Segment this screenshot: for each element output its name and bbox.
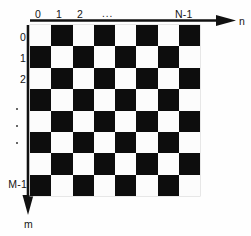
- grid-cell: [158, 132, 179, 153]
- grid-cell: [115, 46, 136, 67]
- grid-cell: [73, 132, 94, 153]
- grid-cell: [179, 89, 200, 110]
- grid-cell: [30, 175, 51, 196]
- ellipsis-dot: [16, 108, 18, 110]
- grid-cell: [158, 153, 179, 174]
- grid-cell: [179, 111, 200, 132]
- grid-cell: [94, 25, 115, 46]
- grid-cell: [30, 89, 51, 110]
- ellipsis-dot: [16, 125, 18, 127]
- grid-cell: [51, 46, 72, 67]
- figure-canvas: 0 1 2 ... N-1 0 1 2 M-1 n m: [0, 0, 251, 236]
- grid-cell: [158, 111, 179, 132]
- grid-cell: [94, 132, 115, 153]
- grid-cell: [136, 132, 157, 153]
- grid-cell: [179, 46, 200, 67]
- axis-label-n: n: [239, 16, 245, 27]
- grid-cell: [136, 175, 157, 196]
- grid-cell: [73, 175, 94, 196]
- grid-cell: [94, 111, 115, 132]
- grid-cell: [30, 46, 51, 67]
- grid-cell: [51, 153, 72, 174]
- grid-cell: [51, 111, 72, 132]
- grid-cell: [30, 132, 51, 153]
- ellipsis-dot: [16, 142, 18, 144]
- grid-cell: [158, 46, 179, 67]
- checkerboard-grid: [30, 25, 200, 196]
- grid-cell: [115, 153, 136, 174]
- axis-label-m: m: [24, 219, 33, 230]
- grid-cell: [115, 68, 136, 89]
- grid-cell: [179, 153, 200, 174]
- grid-cell: [179, 175, 200, 196]
- grid-cell: [136, 68, 157, 89]
- grid-cell: [51, 25, 72, 46]
- grid-cell: [73, 153, 94, 174]
- grid-cell: [94, 89, 115, 110]
- grid-cell: [115, 132, 136, 153]
- grid-cell: [158, 89, 179, 110]
- grid-cell: [51, 132, 72, 153]
- grid-cell: [73, 46, 94, 67]
- grid-cell: [30, 68, 51, 89]
- grid-cell: [136, 46, 157, 67]
- grid-cell: [30, 111, 51, 132]
- grid-cell: [51, 89, 72, 110]
- grid-cell: [158, 175, 179, 196]
- grid-cell: [179, 68, 200, 89]
- grid-cell: [136, 89, 157, 110]
- grid-cell: [73, 89, 94, 110]
- grid-cell: [30, 25, 51, 46]
- grid-cell: [115, 111, 136, 132]
- row-label-ellipsis: [14, 108, 20, 144]
- grid-cell: [136, 25, 157, 46]
- grid-cell: [51, 68, 72, 89]
- grid-cell: [73, 68, 94, 89]
- grid-cell: [94, 175, 115, 196]
- grid-cell: [115, 25, 136, 46]
- grid-cell: [136, 153, 157, 174]
- grid-cell: [115, 175, 136, 196]
- grid-cell: [30, 153, 51, 174]
- grid-cell: [179, 25, 200, 46]
- grid-cell: [94, 153, 115, 174]
- grid-cell: [115, 89, 136, 110]
- grid-cell: [179, 132, 200, 153]
- grid-cell: [158, 25, 179, 46]
- grid-cell: [136, 111, 157, 132]
- grid-cell: [158, 68, 179, 89]
- grid-cell: [73, 25, 94, 46]
- grid-cell: [73, 111, 94, 132]
- grid-cell: [94, 68, 115, 89]
- grid-cell: [51, 175, 72, 196]
- grid-cell: [94, 46, 115, 67]
